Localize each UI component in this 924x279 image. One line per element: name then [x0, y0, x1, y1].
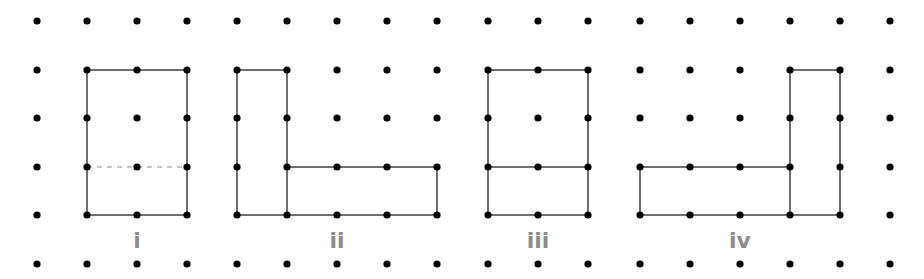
- grid-dot: [433, 211, 440, 218]
- figure-label-ii: ii: [329, 228, 344, 253]
- figure-iii-outline: [488, 70, 588, 215]
- grid-dot: [786, 260, 793, 267]
- grid-dot: [636, 66, 643, 73]
- grid-dot: [233, 114, 240, 121]
- grid-dot: [836, 114, 843, 121]
- grid-dot: [383, 260, 390, 267]
- figure-outlines: [87, 70, 840, 215]
- grid-dot: [836, 211, 843, 218]
- grid-dot: [283, 66, 290, 73]
- grid-dot: [736, 114, 743, 121]
- grid-dot: [836, 66, 843, 73]
- grid-dot: [584, 211, 591, 218]
- grid-dot: [183, 66, 190, 73]
- grid-dot: [584, 17, 591, 24]
- grid-dot: [33, 211, 40, 218]
- grid-dot: [333, 163, 340, 170]
- grid-dot: [433, 260, 440, 267]
- grid-dot: [686, 163, 693, 170]
- grid-dot: [484, 17, 491, 24]
- grid-dot: [886, 163, 893, 170]
- grid-dot: [686, 66, 693, 73]
- grid-dot: [534, 114, 541, 121]
- figure-labels: i ii iii iv: [133, 228, 751, 253]
- grid-dot: [33, 163, 40, 170]
- grid-dot: [686, 260, 693, 267]
- grid-dot: [534, 66, 541, 73]
- grid-dot: [83, 66, 90, 73]
- grid-dot: [786, 66, 793, 73]
- grid-dot: [33, 260, 40, 267]
- grid-dot: [333, 17, 340, 24]
- grid-dot: [736, 211, 743, 218]
- grid-dot: [484, 260, 491, 267]
- grid-dot: [736, 260, 743, 267]
- grid-dot: [33, 17, 40, 24]
- grid-dot: [433, 163, 440, 170]
- grid-dot: [886, 260, 893, 267]
- grid-dot: [636, 211, 643, 218]
- grid-dot: [83, 211, 90, 218]
- grid-dot: [83, 17, 90, 24]
- grid-dot: [383, 17, 390, 24]
- figure-label-i: i: [133, 228, 141, 253]
- grid-dot: [686, 114, 693, 121]
- grid-dot: [333, 211, 340, 218]
- grid-dot: [133, 211, 140, 218]
- grid-dot: [836, 17, 843, 24]
- grid-dot: [584, 66, 591, 73]
- grid-dot: [886, 211, 893, 218]
- grid-dot: [133, 163, 140, 170]
- grid-dot: [333, 260, 340, 267]
- grid-dot: [83, 260, 90, 267]
- grid-dot: [433, 66, 440, 73]
- grid-dot: [133, 66, 140, 73]
- grid-dot: [183, 163, 190, 170]
- grid-dot: [83, 114, 90, 121]
- dot-grid-diagram: i ii iii iv: [0, 0, 924, 279]
- grid-dot: [183, 260, 190, 267]
- grid-dot: [233, 66, 240, 73]
- grid-dot: [383, 163, 390, 170]
- grid-dot: [686, 17, 693, 24]
- grid-dot: [233, 260, 240, 267]
- grid-dot: [333, 66, 340, 73]
- grid-dot: [584, 163, 591, 170]
- grid-dot: [584, 114, 591, 121]
- grid-dot: [233, 17, 240, 24]
- grid-dot: [686, 211, 693, 218]
- grid-dot: [33, 66, 40, 73]
- grid-dot: [836, 260, 843, 267]
- grid-dot: [886, 66, 893, 73]
- grid-dot: [836, 163, 843, 170]
- grid-dot: [786, 17, 793, 24]
- grid-dot: [33, 114, 40, 121]
- grid-dot: [584, 260, 591, 267]
- grid-dot: [283, 260, 290, 267]
- figure-iv-outline: [640, 70, 840, 215]
- grid-dot: [233, 163, 240, 170]
- grid-dot: [534, 211, 541, 218]
- grid-dot: [786, 114, 793, 121]
- grid-dot: [283, 211, 290, 218]
- figure-i-outline: [87, 70, 187, 215]
- grid-dot: [886, 114, 893, 121]
- grid-dot: [383, 114, 390, 121]
- grid-dot: [133, 114, 140, 121]
- grid-dot: [283, 114, 290, 121]
- grid-dot: [83, 163, 90, 170]
- grid-dot: [133, 17, 140, 24]
- dot-grid: [33, 17, 893, 267]
- grid-dot: [484, 163, 491, 170]
- grid-dot: [786, 163, 793, 170]
- grid-dot: [283, 17, 290, 24]
- grid-dot: [534, 17, 541, 24]
- grid-dot: [233, 211, 240, 218]
- grid-dot: [484, 66, 491, 73]
- grid-dot: [484, 211, 491, 218]
- grid-dot: [283, 163, 290, 170]
- grid-dot: [736, 66, 743, 73]
- figure-label-iii: iii: [527, 228, 550, 253]
- grid-dot: [636, 163, 643, 170]
- grid-dot: [636, 114, 643, 121]
